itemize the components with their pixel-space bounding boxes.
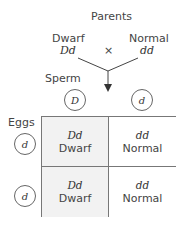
eggs-label: Eggs: [8, 116, 35, 129]
cell-phenotype: Dwarf: [59, 192, 92, 205]
cell-phenotype: Dwarf: [59, 142, 92, 155]
cell-phenotype: Normal: [123, 142, 163, 155]
egg-allele-2: d: [14, 185, 36, 207]
punnett-square: Dd Dwarf dd Normal Dd Dwarf dd Normal: [41, 116, 176, 217]
cross-arrow-icon: [0, 0, 187, 110]
cell-1-1: Dd Dwarf: [42, 117, 109, 167]
cell-2-2: dd Normal: [109, 167, 176, 217]
sperm-allele-1: D: [64, 89, 86, 111]
cell-genotype: dd: [136, 129, 149, 142]
cell-genotype: Dd: [67, 129, 82, 142]
cell-2-1: Dd Dwarf: [42, 167, 109, 217]
egg-allele-1: d: [14, 133, 36, 155]
sperm-label: Sperm: [45, 72, 81, 85]
cell-phenotype: Normal: [123, 192, 163, 205]
cell-1-2: dd Normal: [109, 117, 176, 167]
cell-genotype: dd: [136, 179, 149, 192]
sperm-allele-2: d: [131, 89, 153, 111]
cell-genotype: Dd: [67, 179, 82, 192]
